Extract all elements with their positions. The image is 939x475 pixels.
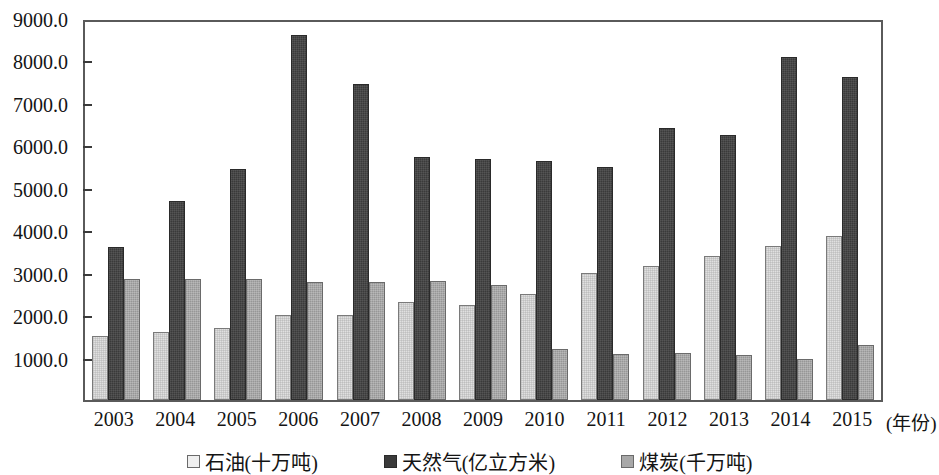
bar-group — [391, 22, 452, 400]
bar-oil — [704, 256, 720, 400]
x-tick-label: 2005 — [206, 408, 268, 431]
bar-oil — [643, 266, 659, 400]
bar-group — [269, 22, 330, 400]
bar-oil — [92, 336, 108, 400]
legend: 石油(十万吨)天然气(亿立方米)煤炭(千万吨) — [0, 447, 939, 475]
bar-oil — [581, 273, 597, 400]
bar-gas — [781, 57, 797, 400]
x-tick-label: 2004 — [145, 408, 207, 431]
y-tick-label: 2000.0 — [13, 306, 68, 329]
x-tick-label: 2007 — [329, 408, 391, 431]
legend-item-gas[interactable]: 天然气(亿立方米) — [384, 447, 555, 475]
bar-group — [575, 22, 636, 400]
y-tick-label: 6000.0 — [13, 136, 68, 159]
legend-label: 石油(十万吨) — [205, 447, 318, 475]
bar-coal — [491, 285, 507, 400]
bar-coal — [369, 282, 385, 400]
bar-coal — [613, 354, 629, 400]
bar-group — [85, 22, 146, 400]
bar-gas — [414, 157, 430, 400]
bar-gas — [720, 135, 736, 400]
bar-group — [636, 22, 697, 400]
plot-area — [83, 20, 883, 402]
y-tick-label: 3000.0 — [13, 263, 68, 286]
bar-coal — [185, 279, 201, 400]
bar-coal — [797, 359, 813, 400]
legend-label: 煤炭(千万吨) — [639, 447, 752, 475]
y-tick-mark — [83, 104, 92, 106]
bar-group — [207, 22, 268, 400]
bar-group — [330, 22, 391, 400]
y-tick-label: 8000.0 — [13, 51, 68, 74]
bar-coal — [858, 345, 874, 400]
bar-coal — [736, 355, 752, 400]
bar-gas — [169, 201, 185, 400]
y-tick-label: 9000.0 — [13, 9, 68, 32]
y-tick-label: 1000.0 — [13, 348, 68, 371]
bar-coal — [246, 279, 262, 400]
bar-coal — [307, 282, 323, 400]
bar-chart: 9000.08000.07000.06000.05000.04000.03000… — [0, 0, 939, 475]
y-tick-label: 4000.0 — [13, 221, 68, 244]
y-tick-mark — [83, 359, 92, 361]
legend-swatch-icon — [187, 455, 200, 468]
legend-swatch-icon — [621, 455, 634, 468]
y-tick-mark — [83, 189, 92, 191]
y-axis: 9000.08000.07000.06000.05000.04000.03000… — [0, 0, 78, 410]
y-tick-mark — [83, 231, 92, 233]
bar-oil — [520, 294, 536, 400]
y-tick-mark — [83, 316, 92, 318]
x-axis: 2003200420052006200720082009201020112012… — [83, 408, 883, 438]
bar-gas — [291, 35, 307, 400]
x-tick-label: 2012 — [637, 408, 699, 431]
bar-oil — [275, 315, 291, 400]
bar-oil — [153, 332, 169, 400]
y-tick-mark — [83, 146, 92, 148]
bar-coal — [430, 281, 446, 400]
bar-oil — [214, 328, 230, 400]
bar-group — [146, 22, 207, 400]
bar-groups-container — [85, 22, 881, 400]
y-tick-mark — [83, 274, 92, 276]
x-tick-label: 2013 — [698, 408, 760, 431]
bar-group — [759, 22, 820, 400]
x-tick-label: 2009 — [452, 408, 514, 431]
bar-oil — [337, 315, 353, 400]
legend-item-oil[interactable]: 石油(十万吨) — [187, 447, 318, 475]
bar-coal — [552, 349, 568, 400]
bar-oil — [459, 305, 475, 401]
bar-coal — [124, 279, 140, 400]
legend-swatch-icon — [384, 455, 397, 468]
y-tick-mark — [83, 61, 92, 63]
bar-group — [820, 22, 881, 400]
x-tick-label: 2003 — [83, 408, 145, 431]
bar-gas — [475, 159, 491, 400]
bar-group — [697, 22, 758, 400]
bar-oil — [398, 302, 414, 400]
legend-label: 天然气(亿立方米) — [402, 447, 555, 475]
x-tick-label: 2008 — [391, 408, 453, 431]
bar-group — [514, 22, 575, 400]
y-tick-label: 5000.0 — [13, 178, 68, 201]
bar-gas — [597, 167, 613, 400]
x-tick-label: 2014 — [760, 408, 822, 431]
legend-item-coal[interactable]: 煤炭(千万吨) — [621, 447, 752, 475]
x-tick-label: 2011 — [575, 408, 637, 431]
bar-group — [452, 22, 513, 400]
bar-gas — [536, 161, 552, 400]
bar-gas — [842, 77, 858, 400]
x-tick-label: 2015 — [821, 408, 883, 431]
x-tick-label: 2006 — [268, 408, 330, 431]
bar-gas — [353, 84, 369, 400]
bar-gas — [108, 247, 124, 400]
bar-oil — [765, 246, 781, 400]
bar-oil — [826, 236, 842, 400]
x-axis-unit-label: (年份) — [886, 408, 937, 435]
bar-coal — [675, 353, 691, 400]
y-tick-label: 7000.0 — [13, 93, 68, 116]
bar-gas — [659, 128, 675, 400]
x-tick-label: 2010 — [514, 408, 576, 431]
bar-gas — [230, 169, 246, 400]
